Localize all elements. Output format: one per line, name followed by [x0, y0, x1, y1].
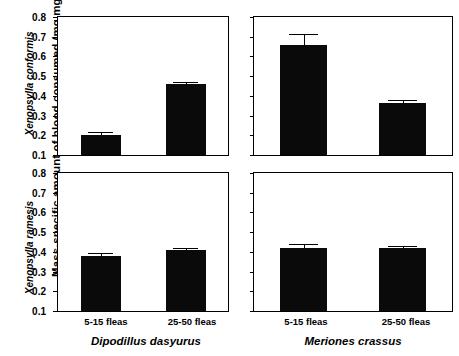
- panel-bottom-left: 0.10.20.30.40.50.60.70.8: [57, 172, 229, 312]
- y-axis-tick: [250, 212, 254, 213]
- y-axis-tick: 0.3: [53, 116, 58, 117]
- y-axis-tick: 0.2: [53, 135, 58, 136]
- y-axis-tick-label: 0.2: [32, 130, 46, 141]
- error-bar-cap: [173, 248, 198, 249]
- bar: [81, 256, 121, 311]
- y-axis-tick-label: 0.1: [32, 306, 46, 317]
- x-tick-label-right-5-15: 5-15 fleas: [284, 316, 327, 327]
- y-axis-tick: [250, 37, 254, 38]
- y-axis-tick-label: 0.7: [32, 187, 46, 198]
- y-axis-tick: 0.6: [53, 56, 58, 57]
- y-axis-tick: [250, 291, 254, 292]
- figure-canvas: Mass-specific amount of blood consumed (…: [0, 0, 459, 356]
- y-axis-tick: 0.8: [53, 173, 58, 174]
- y-axis-tick-label: 0.2: [32, 286, 46, 297]
- error-bar-cap: [388, 100, 417, 101]
- y-axis-tick: [250, 193, 254, 194]
- y-axis-tick-label: 0.6: [32, 207, 46, 218]
- y-axis-tick: [250, 76, 254, 77]
- y-axis-tick: [250, 135, 254, 136]
- y-axis-tick-label: 0.8: [32, 12, 46, 23]
- y-axis-tick: [250, 311, 254, 312]
- bar: [280, 45, 327, 155]
- y-axis-tick: 0.2: [53, 291, 58, 292]
- error-bar-cap: [88, 132, 113, 133]
- y-axis-tick: 0.5: [53, 232, 58, 233]
- y-axis-tick: 0.7: [53, 37, 58, 38]
- y-axis-tick: 0.1: [53, 311, 58, 312]
- bar: [166, 250, 206, 311]
- panel-top-left: 0.10.20.30.40.50.60.70.8: [57, 16, 229, 156]
- bar: [166, 84, 206, 155]
- y-axis-tick: 0.8: [53, 17, 58, 18]
- y-axis-tick: 0.6: [53, 212, 58, 213]
- y-axis-tick-label: 0.3: [32, 266, 46, 277]
- plot-area-top-left: 0.10.20.30.40.50.60.70.8: [58, 17, 228, 155]
- bar: [280, 248, 327, 311]
- y-axis-tick-label: 0.6: [32, 51, 46, 62]
- y-axis-tick: [250, 252, 254, 253]
- y-axis-tick: [250, 56, 254, 57]
- y-axis-tick: 0.5: [53, 76, 58, 77]
- y-axis-tick: 0.4: [53, 96, 58, 97]
- y-axis-tick: 0.3: [53, 272, 58, 273]
- error-bar-cap: [289, 34, 318, 35]
- y-axis-tick-label: 0.1: [32, 150, 46, 161]
- y-axis-tick-label: 0.7: [32, 31, 46, 42]
- y-axis-tick: [250, 272, 254, 273]
- error-bar-cap: [173, 82, 198, 83]
- x-tick-label-left-5-15: 5-15 fleas: [84, 316, 127, 327]
- y-axis-tick-label: 0.5: [32, 227, 46, 238]
- y-axis-tick: 0.7: [53, 193, 58, 194]
- y-axis-tick-label: 0.4: [32, 90, 46, 101]
- plot-area-bottom-left: 0.10.20.30.40.50.60.70.8: [58, 173, 228, 311]
- panel-top-right: [253, 16, 453, 156]
- y-axis-tick: 0.4: [53, 252, 58, 253]
- y-axis-tick: [250, 116, 254, 117]
- group-label-dipodillus-dasyurus: Dipodillus dasyurus: [91, 335, 201, 347]
- x-tick-label-left-25-50: 25-50 fleas: [168, 316, 217, 327]
- y-axis-tick-label: 0.8: [32, 168, 46, 179]
- y-axis-tick: [250, 173, 254, 174]
- error-bar: [304, 34, 305, 45]
- error-bar-cap: [388, 246, 417, 247]
- bar: [379, 248, 426, 311]
- error-bar-cap: [289, 244, 318, 245]
- y-axis-tick: [250, 96, 254, 97]
- y-axis-tick-label: 0.5: [32, 71, 46, 82]
- bar: [379, 103, 426, 155]
- y-axis-tick: [250, 17, 254, 18]
- plot-area-bottom-right: [254, 173, 452, 311]
- x-tick-label-right-25-50: 25-50 fleas: [382, 316, 431, 327]
- error-bar-cap: [88, 253, 113, 254]
- y-axis-tick-label: 0.4: [32, 246, 46, 257]
- y-axis-tick: [250, 232, 254, 233]
- plot-area-top-right: [254, 17, 452, 155]
- bar: [81, 135, 121, 155]
- y-axis-tick: [250, 155, 254, 156]
- y-axis-tick: 0.1: [53, 155, 58, 156]
- group-label-meriones-crassus: Meriones crassus: [304, 335, 401, 347]
- y-axis-tick-label: 0.3: [32, 110, 46, 121]
- panel-bottom-right: [253, 172, 453, 312]
